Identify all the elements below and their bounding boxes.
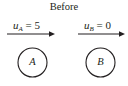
velocity-value: 0 <box>106 19 112 31</box>
velocity-subscript: B <box>90 25 94 33</box>
equals-sign: = <box>26 19 32 31</box>
body-a-label: A <box>23 56 43 68</box>
velocity-subscript: A <box>19 25 23 33</box>
velocity-value: 5 <box>35 19 41 31</box>
velocity-label-a: uA = 5 <box>13 19 40 35</box>
diagram-canvas <box>0 0 128 86</box>
equals-sign: = <box>97 19 103 31</box>
velocity-label-b: uB = 0 <box>84 19 111 35</box>
body-b-label: B <box>91 56 111 68</box>
